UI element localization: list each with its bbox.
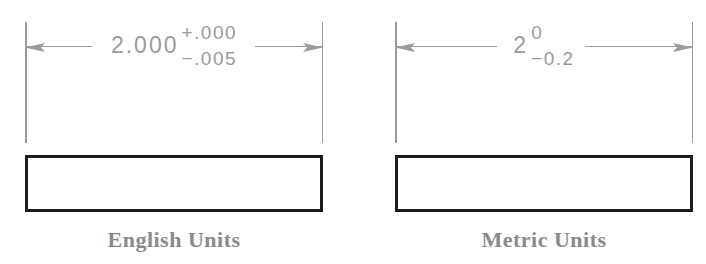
tolerance-lower: −.005 [181, 46, 237, 72]
tolerance-upper: +.000 [181, 20, 237, 46]
tolerance-stack: +.000 −.005 [181, 20, 237, 72]
metric-units-figure: 2 0 −0.2 Metric Units [395, 0, 693, 264]
arrowhead-left-icon [395, 42, 415, 53]
part-rectangle [25, 155, 323, 212]
english-units-figure: 2.000 +.000 −.005 English Units [25, 0, 323, 264]
arrowhead-right-icon [673, 42, 693, 53]
extension-line-left [395, 22, 397, 143]
tolerance-stack: 0 −0.2 [531, 20, 575, 72]
part-rectangle [395, 155, 693, 212]
tolerance-lower: −0.2 [531, 46, 575, 72]
figure-caption: English Units [25, 227, 323, 253]
dimension-value: 2.000 [111, 34, 179, 59]
dimension-text: 2 0 −0.2 [513, 24, 574, 68]
extension-line-left [25, 22, 27, 143]
dimension-text: 2.000 +.000 −.005 [111, 24, 237, 68]
extension-line-right [692, 22, 694, 143]
drawing-canvas: 2.000 +.000 −.005 English Units 2 0 −0.2 [0, 0, 706, 264]
arrowhead-left-icon [25, 42, 45, 53]
tolerance-upper: 0 [531, 20, 575, 46]
dimension-value: 2 [513, 34, 528, 59]
figure-caption: Metric Units [395, 227, 693, 253]
arrowhead-right-icon [303, 42, 323, 53]
extension-line-right [322, 22, 324, 143]
